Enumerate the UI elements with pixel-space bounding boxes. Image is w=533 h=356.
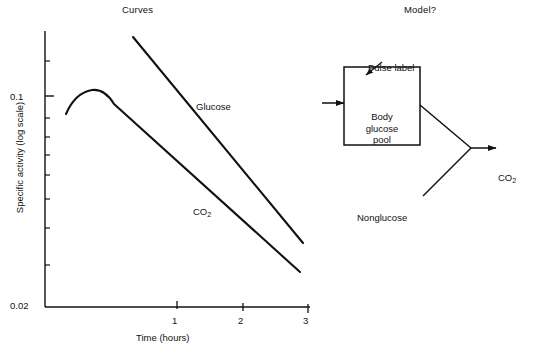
co2-series-curve <box>66 90 300 272</box>
y-axis-title: Specific activity (log scale) <box>14 83 25 233</box>
x-axis-tick-label-3: 3 <box>303 315 308 326</box>
pulse-label-annotation: Pulse label <box>368 62 414 74</box>
co2-series-label-text: CO <box>193 206 207 217</box>
glucose-series-label: Glucose <box>196 101 231 112</box>
co2-output-label: CO2 <box>498 172 516 187</box>
co2-series-label: CO2 <box>193 206 211 219</box>
glucose-to-junction-line <box>420 105 471 148</box>
model-panel-title: Model? <box>404 4 436 15</box>
figure-root: Curves <box>0 0 533 356</box>
body-glucose-pool-label: Bodyglucosepool <box>344 111 420 146</box>
model-panel: Model? Pulse label <box>330 0 533 356</box>
x-axis-title: Time (hours) <box>136 332 190 343</box>
y-axis-tick-label-0.02: 0.02 <box>10 300 29 311</box>
y-axis-minor-ticks <box>45 61 50 265</box>
glucose-series-line <box>133 37 303 243</box>
curves-plot-area <box>0 0 330 356</box>
box-label-line-1: Body <box>371 111 393 122</box>
co2-output-label-subscript: 2 <box>512 176 516 185</box>
box-label-line-3: pool <box>373 134 391 145</box>
box-label-line-2: glucose <box>366 123 399 134</box>
x-axis-tick-label-1: 1 <box>172 315 177 326</box>
x-axis-tick-label-2: 2 <box>238 315 243 326</box>
curves-panel: Curves <box>0 0 330 356</box>
co2-output-label-text: CO <box>498 172 512 183</box>
nonglucose-source-label: Nonglucose <box>357 212 407 224</box>
co2-series-label-subscript: 2 <box>207 210 211 219</box>
curves-panel-title: Curves <box>122 4 153 15</box>
nonglucose-to-junction-line <box>423 148 471 196</box>
